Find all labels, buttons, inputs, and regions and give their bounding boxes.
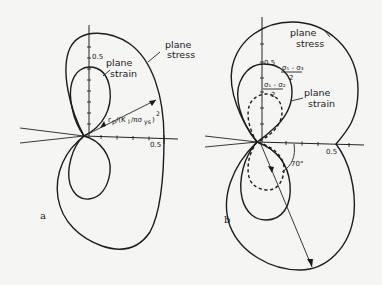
figure-a-crack-upper <box>20 128 84 136</box>
figure-b-plane-stress-label-2: stress <box>296 38 324 49</box>
svg-text:): ) <box>152 116 155 124</box>
figure-b-angle-label: 70° <box>291 160 303 168</box>
figure-b-criterion-1-label: σ₁ - σ₃ 2 <box>281 64 304 82</box>
figure-b-plane-strain-upper <box>238 64 292 142</box>
svg-text:2: 2 <box>156 110 160 117</box>
svg-text:2: 2 <box>289 74 293 82</box>
figure-a-plane-strain-lower <box>69 136 110 199</box>
figure-a-crack-lower <box>20 136 84 143</box>
figure-b-x-tick-label: 0.5 <box>326 148 337 156</box>
figure-a-y-tick-label: 0.5 <box>92 53 103 61</box>
figure-b-strain-leader <box>291 98 303 101</box>
figure-b-panel-label: b <box>224 214 230 225</box>
figure-a-plane-strain-label-2: strain <box>110 68 137 79</box>
figure-b-plane-strain-lower <box>241 142 290 220</box>
figure-a-x-tick-label: 0.5 <box>150 141 161 149</box>
svg-text:/πσ: /πσ <box>131 116 143 124</box>
svg-text:2: 2 <box>271 91 275 99</box>
figure-a-stress-leader <box>148 52 160 62</box>
figure-a: plane stress plane strain 0.5 0.5 r p /(… <box>20 25 195 249</box>
figure-b-y-tick-label: 0.5 <box>264 59 275 67</box>
figure-a-plane-stress-label-2: stress <box>167 49 195 60</box>
figure-b-plane-stress-curve <box>226 22 358 270</box>
svg-text:σ₁ - σ₂: σ₁ - σ₂ <box>264 81 286 89</box>
figure-b: plane stress plane strain 0.5 0.5 σ₁ - σ… <box>205 17 364 270</box>
figure-a-panel-label: a <box>40 210 46 221</box>
figure-b-tresca-lower-dashed <box>248 142 284 190</box>
svg-text:ys: ys <box>144 118 151 126</box>
figure-a-radius-label: r p /(K I /πσ ys ) 2 <box>108 110 160 126</box>
figure-b-crack-upper <box>205 136 257 142</box>
figure-b-x-axis <box>257 142 364 145</box>
figure-b-tresca-upper-dashed <box>248 94 282 142</box>
figure-a-plane-strain-label-1: plane <box>106 57 133 68</box>
figure-b-plane-strain-label-1: plane <box>304 87 331 98</box>
figure-b-radius-line <box>260 142 312 267</box>
figure-b-plane-strain-label-2: strain <box>308 98 335 109</box>
svg-text:I: I <box>128 118 130 125</box>
svg-text:/(K: /(K <box>116 116 126 124</box>
plastic-zone-diagram: plane stress plane strain 0.5 0.5 r p /(… <box>0 0 382 285</box>
figure-b-radius-arrowhead <box>307 259 313 267</box>
figure-b-crack-lower <box>205 142 257 147</box>
figure-b-plane-stress-label-1: plane <box>290 27 317 38</box>
svg-text:r: r <box>108 116 111 124</box>
figure-b-criterion-2-label: σ₁ - σ₂ 2 <box>263 81 286 99</box>
svg-text:σ₁ - σ₃: σ₁ - σ₃ <box>282 64 304 72</box>
figure-b-radius-arrowtail <box>268 166 274 173</box>
